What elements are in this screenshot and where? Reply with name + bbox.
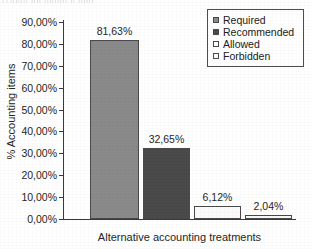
y-axis-tick-label: 80,00%: [1, 39, 57, 50]
y-axis-tick-mark: [59, 88, 63, 89]
y-axis-tick-mark: [59, 44, 63, 45]
legend-item-allowed[interactable]: Allowed: [213, 38, 299, 50]
bar-value-label: 32,65%: [134, 134, 199, 145]
legend-item-label: Forbidden: [223, 51, 270, 62]
y-axis-tick-label: 60,00%: [1, 83, 57, 94]
y-axis-tick-label: 90,00%: [1, 17, 57, 28]
bar-value-label: 2,04%: [236, 201, 301, 212]
legend-swatch-icon: [213, 17, 219, 23]
legend-swatch-icon: [213, 41, 219, 47]
y-axis-tick-mark: [59, 110, 63, 111]
legend-swatch-icon: [213, 53, 219, 59]
legend-item-label: Recommended: [223, 27, 294, 38]
y-axis-tick-labels: 0,00%10,00%20,00%30,00%40,00%50,00%60,00…: [0, 0, 57, 249]
legend-item-label: Allowed: [223, 39, 260, 50]
legend-item-recommended[interactable]: Recommended: [213, 26, 299, 38]
y-axis-tick-mark: [59, 219, 63, 220]
y-axis-tick-label: 0,00%: [1, 214, 57, 225]
y-axis-tick-mark: [59, 66, 63, 67]
bar-allowed: [194, 206, 241, 219]
bar-forbidden: [245, 215, 292, 219]
y-axis-tick-mark: [59, 197, 63, 198]
legend-item-forbidden[interactable]: Forbidden: [213, 50, 299, 62]
bar-recommended: [143, 148, 190, 219]
y-axis-tick-label: 40,00%: [1, 126, 57, 137]
x-axis-title: Alternative accounting treatments: [63, 232, 296, 243]
x-axis-line: [63, 219, 296, 220]
y-axis-tick-mark: [59, 175, 63, 176]
bar-chart: % Accounting items 0,00%10,00%20,00%30,0…: [0, 0, 312, 249]
y-axis-tick-label: 30,00%: [1, 148, 57, 159]
y-axis-tick-label: 20,00%: [1, 170, 57, 181]
legend-item-label: Required: [223, 15, 266, 26]
legend-item-required[interactable]: Required: [213, 14, 299, 26]
y-axis-tick-mark: [59, 131, 63, 132]
y-axis-tick-label: 70,00%: [1, 61, 57, 72]
bar-value-label: 81,63%: [81, 26, 148, 37]
y-axis-tick-mark: [59, 22, 63, 23]
chart-legend: RequiredRecommendedAllowedForbidden: [207, 9, 304, 67]
bar-required: [90, 40, 139, 219]
y-axis-tick-label: 50,00%: [1, 105, 57, 116]
y-axis-tick-mark: [59, 153, 63, 154]
legend-swatch-icon: [213, 29, 219, 35]
y-axis-tick-label: 10,00%: [1, 192, 57, 203]
